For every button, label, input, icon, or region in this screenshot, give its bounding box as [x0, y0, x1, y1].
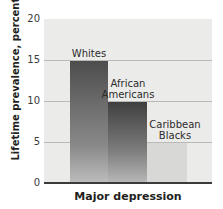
bar-label-line: Blacks	[144, 130, 206, 141]
y-tick-15: 15	[24, 55, 40, 65]
y-tick-5: 5	[24, 137, 40, 147]
y-tick-0: 0	[24, 178, 40, 188]
y-tick-10: 10	[24, 96, 40, 106]
bar-label-caribbean-blacks: Caribbean Blacks	[144, 119, 206, 141]
bar-caribbean-blacks	[147, 143, 187, 183]
bar-label-line: Whites	[72, 48, 106, 59]
x-axis-label: Major depression	[44, 190, 212, 203]
bar-label-whites: Whites	[62, 48, 116, 59]
bar-african-americans	[108, 102, 147, 183]
y-tick-20: 20	[24, 14, 40, 24]
x-axis-line	[44, 182, 212, 184]
y-axis-label: Lifetime prevalence, percent	[10, 37, 21, 161]
bar-label-line: African	[100, 78, 156, 89]
bar-label-line: Americans	[100, 89, 156, 100]
bar-label-african-americans: African Americans	[100, 78, 156, 100]
bar-label-line: Caribbean	[144, 119, 206, 130]
